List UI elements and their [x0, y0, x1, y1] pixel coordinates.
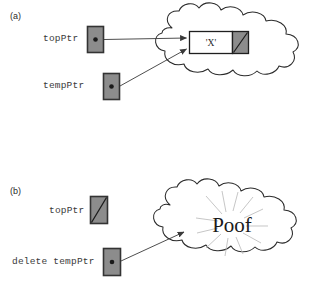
- pointer-deallocation-figure: (a) topPtr tempPtr (b) topPtr delete tem…: [0, 0, 318, 292]
- panel-a-topptr-dot-icon: [93, 37, 98, 42]
- panel-b-delete-arrow: [121, 232, 184, 261]
- figure-vector-layer: 'X' Poof: [0, 0, 318, 292]
- panel-b-tempptr-dot-icon: [110, 260, 115, 265]
- panel-b-poof-text: Poof: [212, 213, 252, 237]
- panel-a-node-data-label: 'X': [206, 38, 217, 48]
- panel-a-tempptr-dot-icon: [109, 84, 114, 89]
- panel-a-tempptr-arrow: [120, 49, 187, 86]
